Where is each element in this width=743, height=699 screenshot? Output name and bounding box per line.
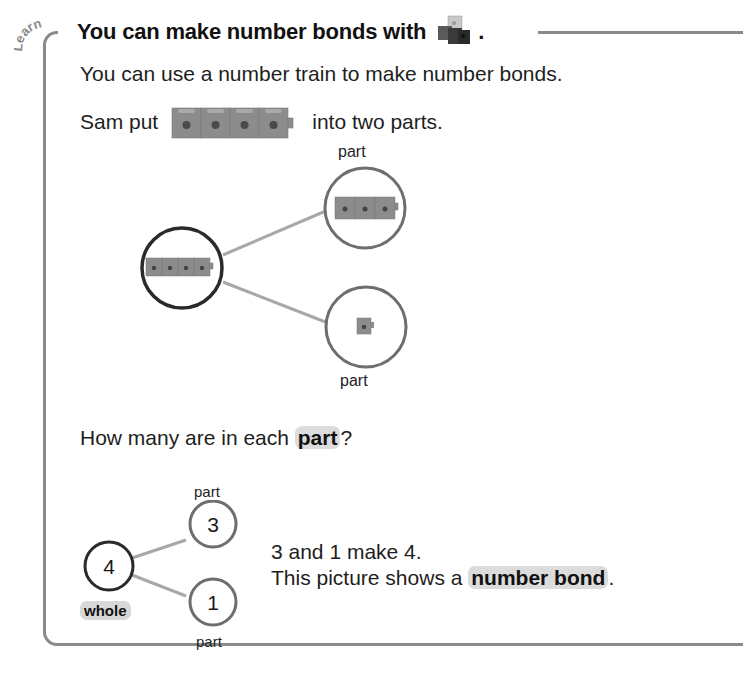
svg-text:Learn: Learn (14, 18, 43, 52)
number-bond-highlight: number bond (468, 566, 608, 589)
intro-text: You can use a number train to make numbe… (80, 62, 563, 86)
whole-cube-train-icon (146, 258, 213, 276)
section-title: You can make number bonds with . (77, 14, 484, 50)
question-after: ? (340, 426, 352, 449)
bond-connector-bottom (132, 575, 186, 596)
whole-label: whole (80, 601, 131, 620)
cube-part-label-bottom: part (340, 372, 368, 390)
explanation-after: . (608, 566, 614, 589)
explanation-line1: 3 and 1 make 4. (271, 540, 422, 564)
connector-bottom (223, 282, 328, 323)
cube-part-whole-diagram (130, 160, 420, 380)
whole-value: 4 (103, 555, 115, 578)
sentence: Sam put into two parts. (80, 105, 443, 139)
bond-part-label-bottom: part (196, 633, 222, 650)
part-highlight: part (295, 426, 341, 449)
title-text: You can make number bonds with (77, 19, 426, 45)
cube-part-label-top: part (338, 143, 366, 161)
question-before: How many are in each (80, 426, 289, 449)
three-cube-train-icon (335, 197, 398, 219)
bond-connector-top (132, 540, 186, 558)
linking-cubes-icon (432, 14, 476, 50)
four-cube-train-icon (170, 105, 300, 139)
part-value-bottom: 1 (207, 591, 219, 614)
connector-top (223, 210, 328, 255)
question: How many are in each part? (80, 426, 352, 450)
learn-label: Learn (14, 18, 43, 52)
title-end: . (478, 19, 484, 45)
sentence-before: Sam put (80, 110, 158, 134)
explanation-line2: This picture shows a number bond. (271, 566, 614, 590)
part-value-top: 3 (207, 513, 219, 536)
explanation-before: This picture shows a (271, 566, 462, 589)
bond-part-label-top: part (194, 483, 220, 500)
sentence-after: into two parts. (312, 110, 443, 134)
